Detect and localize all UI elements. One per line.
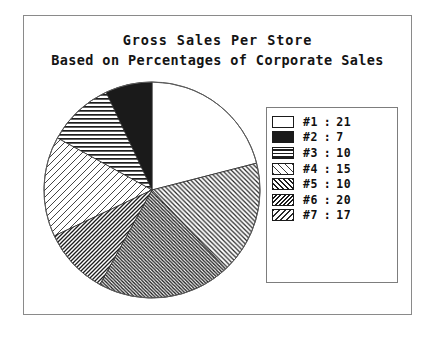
legend-separator: : — [324, 193, 331, 207]
legend-key: #1 — [303, 115, 318, 129]
legend-key: #4 — [303, 162, 318, 176]
legend-item-1[interactable]: #1:21 — [272, 114, 394, 130]
legend-list: #1:21#2:7#3:10#4:15#5:10#6:20#7:17 — [272, 114, 394, 223]
legend-swatch-2 — [272, 131, 294, 143]
legend-swatch-4 — [272, 163, 294, 175]
chart-title: Gross Sales Per Store — [23, 30, 412, 50]
legend-separator: : — [324, 115, 331, 129]
legend-key: #5 — [303, 177, 318, 191]
legend-key: #3 — [303, 146, 318, 160]
legend-label-2: #2:7 — [303, 130, 344, 144]
pie-svg — [38, 78, 270, 306]
legend-label-4: #4:15 — [303, 162, 351, 176]
legend-swatch-7 — [272, 209, 294, 221]
legend-key: #7 — [303, 208, 318, 222]
legend-value: 10 — [336, 177, 351, 191]
pie-slice-group — [44, 82, 260, 298]
legend-label-7: #7:17 — [303, 208, 351, 222]
legend-value: 15 — [336, 162, 351, 176]
legend-separator: : — [324, 177, 331, 191]
legend-value: 17 — [336, 208, 351, 222]
legend-item-3[interactable]: #3:10 — [272, 145, 394, 161]
chart-canvas: Gross Sales Per Store Based on Percentag… — [0, 0, 434, 339]
legend-key: #2 — [303, 130, 318, 144]
legend-value: 10 — [336, 146, 351, 160]
chart-subtitle: Based on Percentages of Corporate Sales — [23, 50, 412, 70]
legend-value: 20 — [336, 193, 351, 207]
legend-separator: : — [324, 208, 331, 222]
legend-swatch-5 — [272, 178, 294, 190]
legend-key: #6 — [303, 193, 318, 207]
legend-value: 7 — [336, 130, 343, 144]
legend-item-4[interactable]: #4:15 — [272, 161, 394, 177]
legend-swatch-1 — [272, 116, 294, 128]
legend-separator: : — [324, 146, 331, 160]
chart-title-block: Gross Sales Per Store Based on Percentag… — [23, 30, 412, 70]
legend-separator: : — [324, 162, 331, 176]
pie-chart — [38, 78, 270, 306]
legend-separator: : — [324, 130, 331, 144]
legend-label-6: #6:20 — [303, 193, 351, 207]
legend-item-5[interactable]: #5:10 — [272, 176, 394, 192]
legend-item-7[interactable]: #7:17 — [272, 208, 394, 224]
legend-label-5: #5:10 — [303, 177, 351, 191]
legend-label-1: #1:21 — [303, 115, 351, 129]
legend-swatch-6 — [272, 194, 294, 206]
legend-value: 21 — [336, 115, 351, 129]
legend-item-2[interactable]: #2:7 — [272, 130, 394, 146]
legend-item-6[interactable]: #6:20 — [272, 192, 394, 208]
legend-swatch-3 — [272, 147, 294, 159]
legend-label-3: #3:10 — [303, 146, 351, 160]
